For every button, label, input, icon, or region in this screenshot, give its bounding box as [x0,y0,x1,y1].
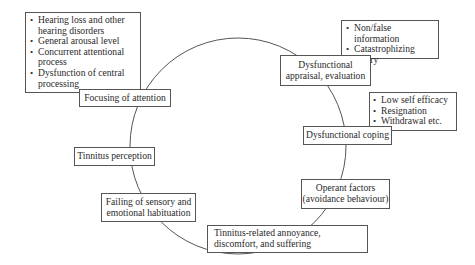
node-label: Focusing of attention [84,93,166,104]
node-tinnitus-related-annoyance: Tinnitus-related annoyance, discomfort, … [207,225,368,253]
node-label-line-1: Dysfunctional [298,60,352,71]
node-dysfunctional-coping: Dysfunctional coping [303,126,392,145]
node-tinnitus-perception: Tinnitus perception [74,147,155,166]
node-label-line-2: (avoidance behaviour) [302,194,388,205]
node-label-line-2: emotional habituation [107,208,191,219]
list-item: Low self efficacy [373,95,452,106]
list-item: Hearing loss and other hearing disorders [30,15,136,36]
node-focusing-of-attention: Focusing of attention [79,89,171,107]
node-label: Dysfunctional coping [306,130,389,141]
list-item: Non/false information [346,23,434,44]
list-item: Dysfunction of central processing [30,68,136,89]
focusing-factors-list: Hearing loss and other hearing disorders… [25,12,141,93]
node-operant-factors: Operant factors (avoidance behaviour) [301,179,390,209]
node-label-line-2: appraisal, evaluation [286,71,365,82]
appraisal-factors-list: Non/false information Catastrophizing Wo… [341,20,439,59]
list-item: Concurrent attentional process [30,47,136,68]
node-label-line-2: discomfort, and suffering [214,239,311,250]
node-dysfunctional-appraisal: Dysfunctional appraisal, evaluation [280,55,371,86]
node-label: Tinnitus perception [77,151,152,162]
node-label-line-1: Failing of sensory and [106,197,192,208]
node-failing-habituation: Failing of sensory and emotional habitua… [101,193,196,222]
